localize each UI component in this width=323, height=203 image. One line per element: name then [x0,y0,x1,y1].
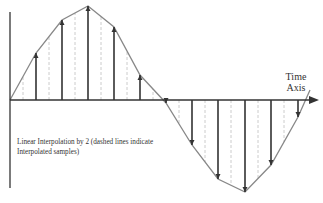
caption: Linear Interpolation by 2 (dashed lines … [17,137,187,157]
interpolation-diagram [0,0,323,203]
waveform [10,6,310,192]
caption-line2: Interpolated samples) [17,147,187,157]
axis-label-line1: Time [276,71,316,82]
axis-label-line2: Axis [276,82,316,93]
caption-line1: Linear Interpolation by 2 (dashed lines … [17,137,187,147]
sample-stems [34,6,301,192]
time-axis-label: Time Axis [276,71,316,93]
time-axis-arrow-icon [309,96,319,104]
